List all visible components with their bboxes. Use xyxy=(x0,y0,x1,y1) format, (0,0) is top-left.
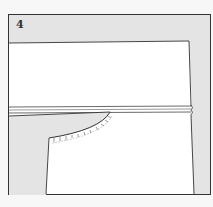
upper-fabric xyxy=(9,41,192,116)
step-number: 4 xyxy=(16,18,24,31)
diagram-illustration xyxy=(0,0,213,207)
sewing-diagram: 4 xyxy=(0,0,213,207)
